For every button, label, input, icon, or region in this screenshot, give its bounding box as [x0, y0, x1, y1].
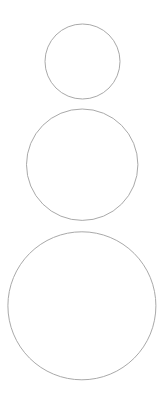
diagram-canvas [0, 0, 168, 418]
circle-small [45, 24, 120, 99]
circles-diagram [0, 0, 168, 418]
circle-large [8, 232, 156, 380]
circle-medium [26, 109, 137, 220]
